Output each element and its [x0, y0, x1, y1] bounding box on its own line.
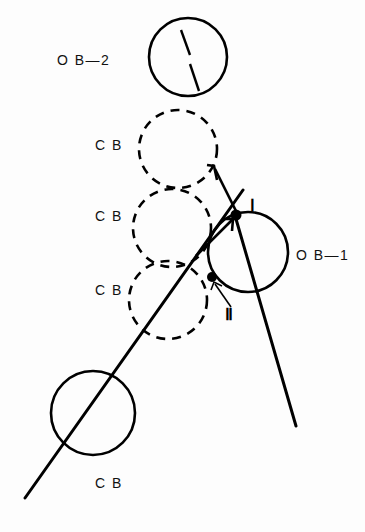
contact-point-one-dot	[231, 210, 242, 221]
label-cb-1: C B	[95, 137, 123, 153]
collision-diagram-svg: O B—2 C B C B C B O B—1 C B Ⅰ Ⅱ	[0, 0, 365, 532]
contact-point-two-dot	[207, 272, 217, 282]
label-cb-4: C B	[95, 475, 123, 491]
label-cb-2: C B	[95, 208, 123, 224]
label-point-one: Ⅰ	[250, 197, 255, 214]
label-point-two: Ⅱ	[225, 306, 233, 323]
label-ob2: O B—2	[57, 52, 110, 68]
diagram-root: O B—2 C B C B C B O B—1 C B Ⅰ Ⅱ	[0, 0, 365, 532]
label-cb-3: C B	[95, 282, 123, 298]
label-ob1: O B—1	[296, 247, 349, 263]
